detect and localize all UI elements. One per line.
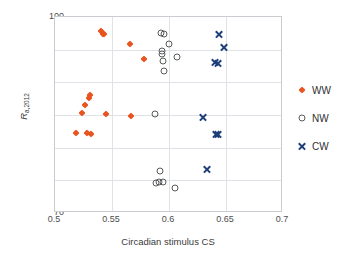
legend-item-label: CW — [312, 141, 329, 152]
marker-cw — [211, 129, 220, 138]
marker-cw — [214, 130, 223, 139]
marker-ww — [88, 130, 95, 137]
marker-nw — [161, 68, 168, 75]
x-axis-tick-label: 0.7 — [262, 215, 302, 224]
marker-cw — [210, 58, 219, 67]
x-axis-tick-label: 0.55 — [91, 215, 131, 224]
x-axis-tick-label: 0.65 — [205, 215, 245, 224]
marker-nw — [159, 51, 166, 58]
marker-ww — [100, 30, 107, 37]
marker-nw — [173, 53, 180, 60]
gridline-horizontal — [55, 148, 281, 149]
gridline-horizontal — [55, 82, 281, 83]
marker-ww — [81, 102, 88, 109]
marker-ww — [87, 92, 94, 99]
marker-nw — [158, 30, 165, 37]
legend-item-cw[interactable]: CW — [296, 132, 348, 160]
gridline-horizontal — [55, 180, 281, 181]
marker-ww — [97, 28, 104, 35]
gridline-vertical — [226, 17, 227, 211]
legend-marker-icon — [296, 84, 310, 96]
marker-cw — [199, 112, 208, 121]
marker-ww — [83, 129, 90, 136]
marker-nw — [299, 115, 306, 122]
scatter-plot-figure: Ra,2012 707580859095100 0.50.550.60.650.… — [0, 0, 350, 262]
marker-ww — [86, 94, 93, 101]
legend-item-label: NW — [312, 113, 329, 124]
gridline-vertical — [112, 17, 113, 211]
legend: WWNWCW — [296, 76, 348, 160]
marker-cw — [298, 142, 307, 151]
x-axis-tick-label: 0.6 — [148, 215, 188, 224]
gridline-vertical — [169, 17, 170, 211]
marker-ww — [128, 113, 135, 120]
legend-marker-icon — [296, 140, 310, 152]
marker-cw — [215, 30, 224, 39]
legend-marker-icon — [296, 112, 310, 124]
marker-cw — [214, 59, 223, 68]
marker-ww — [99, 30, 106, 37]
legend-item-ww[interactable]: WW — [296, 76, 348, 104]
plot-area — [54, 16, 282, 212]
marker-nw — [161, 30, 168, 37]
marker-nw — [160, 58, 167, 65]
marker-ww — [103, 110, 110, 117]
legend-item-nw[interactable]: NW — [296, 104, 348, 132]
gridline-horizontal — [55, 115, 281, 116]
marker-ww — [72, 129, 79, 136]
marker-nw — [156, 167, 163, 174]
marker-cw — [202, 165, 211, 174]
x-axis-label: Circadian stimulus CS — [54, 236, 282, 247]
gridline-horizontal — [55, 50, 281, 51]
marker-ww — [140, 56, 147, 63]
marker-nw — [159, 47, 166, 54]
marker-ww — [127, 40, 134, 47]
legend-item-label: WW — [312, 85, 331, 96]
marker-nw — [171, 184, 178, 191]
marker-nw — [160, 178, 167, 185]
marker-ww — [298, 86, 305, 93]
x-axis-tick-label: 0.5 — [34, 215, 74, 224]
